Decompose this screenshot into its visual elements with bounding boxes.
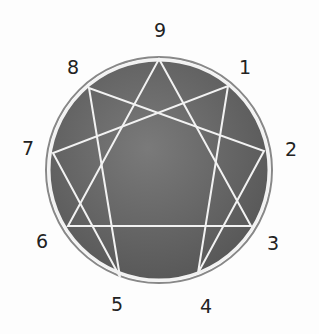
point-label-3: 3 — [267, 232, 279, 254]
point-label-4: 4 — [200, 295, 212, 317]
point-label-2: 2 — [285, 138, 297, 160]
enneagram-diagram — [0, 0, 319, 334]
enneagram-circle — [49, 60, 269, 280]
point-label-5: 5 — [111, 293, 123, 315]
point-label-9: 9 — [154, 19, 166, 41]
point-label-1: 1 — [239, 56, 251, 78]
point-label-6: 6 — [36, 230, 48, 252]
point-label-7: 7 — [22, 137, 34, 159]
point-label-8: 8 — [67, 56, 79, 78]
